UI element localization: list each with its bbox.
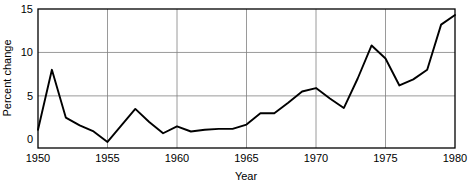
x-tick-label: 1975 [373,152,397,164]
gridlines [38,9,455,148]
y-tick-label: 0 [27,133,33,145]
y-axis-title: Percent change [1,39,13,116]
x-tick-label: 1965 [234,152,258,164]
x-tick-label: 1970 [304,152,328,164]
chart-figure: 1950195519601965197019751980 051015 Year… [0,0,474,187]
x-axis-title: Year [235,170,258,182]
x-tick-label: 1980 [443,152,467,164]
x-tick-label: 1960 [165,152,189,164]
x-tick-label: 1950 [26,152,50,164]
y-tick-label: 15 [21,3,33,15]
y-tick-label: 10 [21,46,33,58]
x-axis-tick-labels: 1950195519601965197019751980 [26,152,467,164]
y-axis-tick-labels: 051015 [21,3,33,145]
y-tick-label: 5 [27,90,33,102]
x-tick-label: 1955 [95,152,119,164]
line-chart: 1950195519601965197019751980 051015 Year… [0,0,474,187]
